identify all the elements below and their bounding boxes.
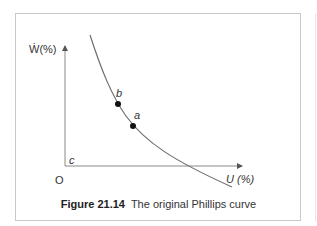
figure-caption: Figure 21.14 The original Phillips curve	[0, 198, 317, 210]
point-b	[115, 101, 121, 107]
x-axis-label: U (%)	[226, 173, 254, 185]
phillips-curve	[90, 35, 232, 187]
y-axis-label: Ẇ(%)	[29, 43, 57, 55]
figure-caption-text: The original Phillips curve	[131, 198, 256, 210]
figure-number: Figure 21.14	[61, 198, 125, 210]
label-a: a	[134, 109, 140, 121]
phillips-chart: b a c Ẇ(%) U (%) O	[0, 0, 317, 226]
point-a	[130, 123, 136, 129]
label-b: b	[116, 87, 122, 99]
label-c: c	[69, 154, 75, 166]
origin-label: O	[55, 174, 64, 186]
